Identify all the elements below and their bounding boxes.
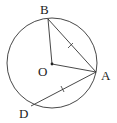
diagram-canvas	[0, 0, 117, 123]
geometry-diagram: B O A D	[0, 0, 117, 123]
label-o: O	[38, 65, 47, 78]
segment-ba	[48, 19, 96, 72]
label-a: A	[101, 69, 110, 82]
point-o	[51, 63, 54, 66]
label-b: B	[40, 3, 49, 16]
label-d: D	[19, 107, 28, 120]
segment-bo	[48, 19, 52, 64]
